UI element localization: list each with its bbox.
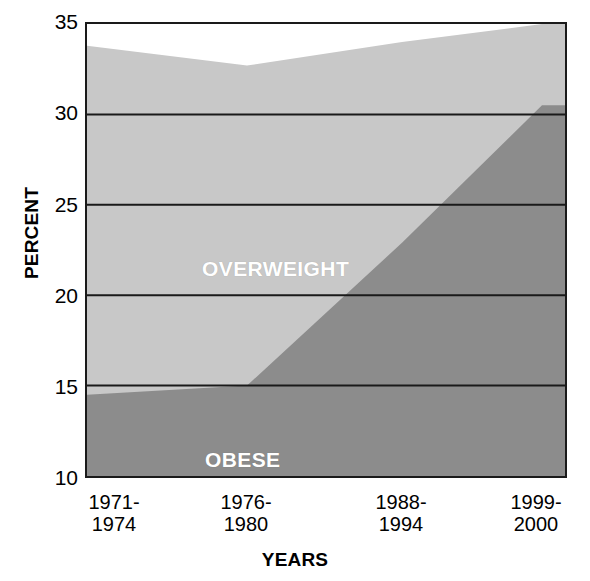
x-tick-line1: 1988-: [375, 491, 426, 513]
x-tick-label-1971-1974: 1971- 1974: [54, 491, 174, 536]
y-tick-label-30: 30: [36, 102, 78, 123]
x-tick-label-1988-1994: 1988- 1994: [341, 491, 461, 536]
x-tick-line2: 2000: [476, 513, 590, 535]
y-tick-label-15: 15: [36, 376, 78, 397]
x-tick-line1: 1976-: [220, 491, 271, 513]
x-tick-line2: 1994: [341, 513, 461, 535]
x-tick-line2: 1980: [186, 513, 306, 535]
x-tick-line2: 1974: [54, 513, 174, 535]
y-tick-label-25: 25: [36, 194, 78, 215]
x-tick-line1: 1999-: [510, 491, 561, 513]
x-tick-line1: 1971-: [88, 491, 139, 513]
series-label-obese: OBESE: [205, 448, 281, 472]
plot-svg: [87, 24, 565, 476]
y-tick-label-35: 35: [36, 11, 78, 32]
series-label-overweight: OVERWEIGHT: [202, 257, 349, 281]
area-chart: PERCENT 35 30 25 20 15 10 OVERWEIGHT OBE…: [0, 0, 590, 581]
y-tick-label-10: 10: [36, 467, 78, 488]
y-tick-label-20: 20: [36, 285, 78, 306]
x-tick-label-1999-2000: 1999- 2000: [476, 491, 590, 536]
area-series-group: [87, 24, 565, 476]
x-axis-title: YEARS: [0, 549, 590, 571]
x-axis-tick-labels: 1971- 1974 1976- 1980 1988- 1994 1999- 2…: [0, 491, 590, 547]
x-tick-label-1976-1980: 1976- 1980: [186, 491, 306, 536]
plot-area: OVERWEIGHT OBESE: [85, 22, 567, 478]
